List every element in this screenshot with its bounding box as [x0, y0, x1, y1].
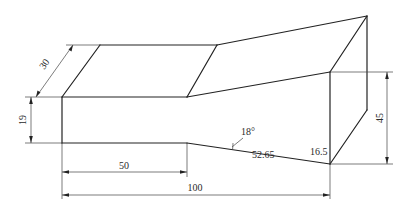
dimension-depth: 30	[25, 45, 100, 97]
dimension-label-step-length: 50	[119, 160, 129, 171]
dimension-step-length: 50	[62, 143, 187, 199]
top-back-edge-slope	[217, 16, 367, 45]
arrowhead-icon	[29, 136, 33, 143]
object-edges	[62, 16, 367, 164]
arrowhead-icon	[323, 193, 330, 197]
dimension-label-depth: 30	[37, 57, 52, 72]
slope-annotations: 18° 52.65 16.5	[232, 126, 328, 160]
arrowhead-icon	[385, 72, 389, 79]
dimension-label-right-height: 45	[374, 113, 385, 123]
arrowhead-icon	[385, 157, 389, 164]
top-step-receding-edge	[187, 45, 217, 97]
arrowhead-icon	[62, 193, 69, 197]
arrowhead-icon	[29, 97, 33, 104]
dimension-total-length: 100	[62, 164, 330, 199]
top-right-receding-edge	[330, 16, 367, 72]
slope-length-label: 52.65	[252, 149, 275, 160]
technical-drawing: 30 19 50 100 45 18°	[0, 0, 408, 218]
dimension-label-front-height: 19	[17, 115, 28, 125]
angle-leader-line	[232, 138, 243, 147]
dimension-label-total-length: 100	[188, 182, 203, 193]
drop-label: 16.5	[310, 146, 328, 157]
arrowhead-icon	[62, 170, 69, 174]
angle-label: 18°	[241, 126, 255, 137]
drawing-canvas: 30 19 50 100 45 18°	[0, 0, 408, 218]
dimension-front-height: 19	[17, 97, 62, 143]
arrowhead-icon	[180, 170, 187, 174]
front-top-edge-slope	[187, 72, 330, 97]
bottom-right-receding-edge	[330, 110, 367, 164]
